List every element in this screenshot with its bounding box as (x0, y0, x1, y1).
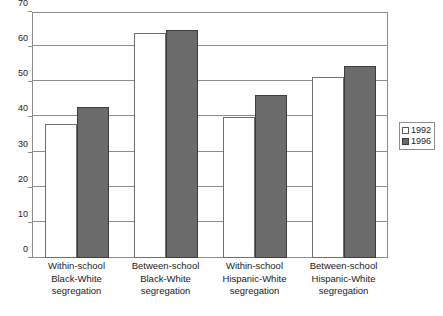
y-axis-tick-label: 30 (4, 140, 28, 149)
y-axis-labels: 010203040506070 (0, 12, 28, 258)
x-axis-category-1: Within-schoolBlack-Whitesegregation (32, 260, 121, 298)
y-axis-tick-label: 70 (4, 0, 28, 8)
legend-swatch-icon (402, 127, 409, 134)
x-axis-category-labels: Within-schoolBlack-WhitesegregationBetwe… (32, 260, 388, 314)
x-axis-category-line: Black-White (121, 273, 210, 286)
bars-layer (32, 12, 388, 258)
legend-item-1996[interactable]: 1996 (402, 136, 431, 147)
y-axis-tick-label: 10 (4, 210, 28, 219)
x-axis-category-line: Hispanic-White (210, 273, 299, 286)
y-axis-tick-label: 0 (4, 245, 28, 254)
bar-1996-group-1 (77, 107, 109, 258)
x-axis-category-3: Within-schoolHispanic-Whitesegregation (210, 260, 299, 298)
bar-1996-group-4 (344, 66, 376, 258)
x-axis-category-line: Within-school (210, 260, 299, 273)
x-axis-category-line: segregation (32, 285, 121, 298)
legend-label: 1996 (411, 137, 431, 146)
x-axis-category-line: Black-White (32, 273, 121, 286)
y-axis-tick-label: 20 (4, 175, 28, 184)
y-axis-tick-label: 50 (4, 69, 28, 78)
bar-1992-group-4 (312, 77, 344, 258)
chart-legend: 19921996 (399, 122, 435, 150)
bar-chart: 010203040506070 Within-schoolBlack-White… (0, 0, 443, 316)
x-axis-category-2: Between-schoolBlack-Whitesegregation (121, 260, 210, 298)
legend-item-1992[interactable]: 1992 (402, 125, 431, 136)
x-axis-category-line: Hispanic-White (299, 273, 388, 286)
x-axis-category-line: segregation (210, 285, 299, 298)
legend-label: 1992 (411, 126, 431, 135)
bar-1992-group-2 (134, 33, 166, 258)
bar-1992-group-3 (223, 117, 255, 258)
x-axis-category-line: segregation (121, 285, 210, 298)
x-axis-category-line: segregation (299, 285, 388, 298)
x-axis-category-4: Between-schoolHispanic-Whitesegregation (299, 260, 388, 298)
bar-1996-group-3 (255, 95, 287, 258)
x-axis-category-line: Within-school (32, 260, 121, 273)
y-axis-tick-label: 60 (4, 34, 28, 43)
x-axis-category-line: Between-school (121, 260, 210, 273)
x-axis-category-line: Between-school (299, 260, 388, 273)
legend-swatch-icon (402, 138, 409, 145)
bar-1996-group-2 (166, 30, 198, 258)
y-axis-tick-label: 40 (4, 104, 28, 113)
bar-1992-group-1 (45, 124, 77, 258)
